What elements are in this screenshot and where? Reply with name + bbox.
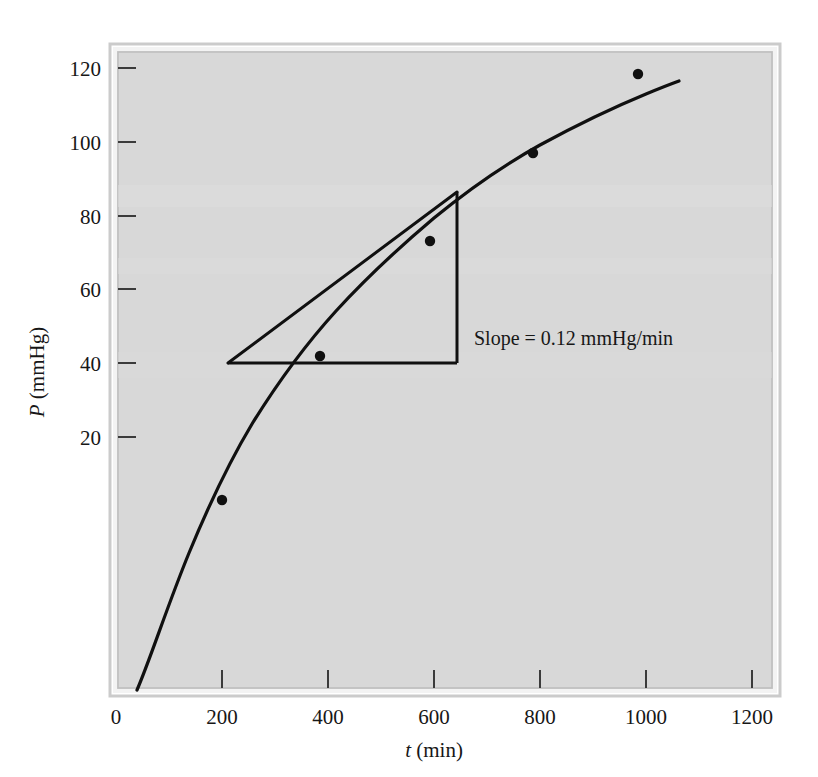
y-tick-label-60: 60 xyxy=(80,278,101,302)
data-point-marker xyxy=(425,236,435,246)
x-axis-title-unit: (min) xyxy=(416,738,463,762)
figure-container: 120 100 80 60 40 20 0 200 400 600 800 10… xyxy=(0,0,818,777)
y-tick-label-120: 120 xyxy=(70,57,102,81)
y-axis-title-unit: (mmHg) xyxy=(25,327,49,399)
data-point-marker xyxy=(633,69,643,79)
x-tick-label-400: 400 xyxy=(312,705,344,729)
y-axis-title: P (mmHg) xyxy=(25,327,49,418)
y-axis-title-symbol: P xyxy=(25,404,49,418)
scan-band-1 xyxy=(118,185,772,207)
svg-text:P (mmHg): P (mmHg) xyxy=(25,327,49,418)
x-tick-label-600: 600 xyxy=(418,705,450,729)
data-point-marker xyxy=(315,351,325,361)
y-tick-label-20: 20 xyxy=(80,426,101,450)
x-tick-label-1200: 1200 xyxy=(731,705,773,729)
x-tick-label-0: 0 xyxy=(111,705,122,729)
y-tick-label-40: 40 xyxy=(80,352,101,376)
x-axis-title: t (min) xyxy=(405,738,463,762)
x-tick-label-1000: 1000 xyxy=(625,705,667,729)
slope-annotation-label: Slope = 0.12 mmHg/min xyxy=(474,327,673,350)
y-tick-label-80: 80 xyxy=(80,205,101,229)
pressure-vs-time-chart: 120 100 80 60 40 20 0 200 400 600 800 10… xyxy=(0,0,818,777)
y-tick-label-100: 100 xyxy=(70,131,102,155)
x-tick-label-800: 800 xyxy=(524,705,556,729)
svg-text:t (min): t (min) xyxy=(405,738,463,762)
data-point-marker xyxy=(528,148,538,158)
scan-band-3 xyxy=(118,352,772,378)
data-point-marker xyxy=(217,495,227,505)
scan-band-2 xyxy=(118,258,772,274)
x-tick-label-200: 200 xyxy=(206,705,238,729)
